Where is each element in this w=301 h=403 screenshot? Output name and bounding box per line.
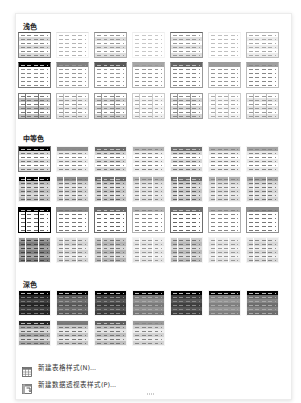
table-style-swatch-medium-26[interactable] bbox=[170, 237, 203, 263]
table-style-swatch-light-7[interactable] bbox=[246, 32, 279, 58]
swatch-row bbox=[95, 228, 126, 232]
table-style-swatch-medium-5[interactable] bbox=[170, 146, 203, 172]
table-style-swatch-medium-18[interactable] bbox=[132, 207, 165, 233]
table-style-swatch-light-12[interactable] bbox=[170, 62, 203, 88]
table-style-swatch-light-10[interactable] bbox=[94, 62, 127, 88]
table-style-swatch-medium-2[interactable] bbox=[56, 146, 89, 172]
table-style-swatch-dark-2[interactable] bbox=[56, 290, 89, 316]
table-style-swatch-dark-9[interactable] bbox=[56, 320, 89, 346]
table-style-swatch-medium-20[interactable] bbox=[208, 207, 241, 233]
table-style-swatch-light-15[interactable] bbox=[18, 93, 51, 119]
table-style-swatch-dark-11[interactable] bbox=[132, 320, 165, 346]
table-style-swatch-light-6[interactable] bbox=[208, 32, 241, 58]
table-style-swatch-medium-12[interactable] bbox=[170, 176, 203, 202]
table-style-swatch-medium-4[interactable] bbox=[132, 146, 165, 172]
table-style-swatch-medium-17[interactable] bbox=[94, 207, 127, 233]
swatch-row bbox=[19, 167, 50, 171]
swatch-row bbox=[247, 83, 278, 87]
swatch-row bbox=[247, 197, 278, 201]
table-style-swatch-light-2[interactable] bbox=[56, 32, 89, 58]
swatch-row bbox=[133, 53, 164, 57]
table-style-swatch-medium-21[interactable] bbox=[246, 207, 279, 233]
swatch-row bbox=[209, 53, 240, 57]
swatch-row bbox=[209, 114, 240, 118]
table-style-swatch-medium-27[interactable] bbox=[208, 237, 241, 263]
table-style-swatch-dark-7[interactable] bbox=[246, 290, 279, 316]
table-style-swatch-medium-13[interactable] bbox=[208, 176, 241, 202]
swatch-row bbox=[57, 311, 88, 315]
table-style-swatch-medium-3[interactable] bbox=[94, 146, 127, 172]
table-style-swatch-medium-23[interactable] bbox=[56, 237, 89, 263]
table-style-swatch-medium-10[interactable] bbox=[94, 176, 127, 202]
new-table-style-button[interactable]: 新建表格样式(N)... bbox=[22, 360, 96, 374]
swatch-row bbox=[57, 258, 88, 262]
swatch-row bbox=[19, 114, 50, 118]
table-style-swatch-dark-10[interactable] bbox=[94, 320, 127, 346]
swatch-row bbox=[57, 197, 88, 201]
swatch-row bbox=[209, 311, 240, 315]
table-style-swatch-light-5[interactable] bbox=[170, 32, 203, 58]
table-style-swatch-medium-16[interactable] bbox=[56, 207, 89, 233]
table-style-swatch-medium-25[interactable] bbox=[132, 237, 165, 263]
table-style-swatch-light-19[interactable] bbox=[170, 93, 203, 119]
table-style-swatch-medium-1[interactable] bbox=[18, 146, 51, 172]
swatch-row bbox=[171, 197, 202, 201]
table-style-swatch-medium-8[interactable] bbox=[18, 176, 51, 202]
table-style-swatch-medium-24[interactable] bbox=[94, 237, 127, 263]
table-style-swatch-medium-9[interactable] bbox=[56, 176, 89, 202]
swatch-row bbox=[247, 53, 278, 57]
new-pivot-table-style-button[interactable]: 新建数据透视表样式(P)... bbox=[22, 377, 116, 391]
table-style-swatch-dark-8[interactable] bbox=[18, 320, 51, 346]
table-style-swatch-dark-5[interactable] bbox=[170, 290, 203, 316]
table-style-swatch-light-20[interactable] bbox=[208, 93, 241, 119]
swatch-row bbox=[247, 311, 278, 315]
swatch-row bbox=[95, 341, 126, 345]
swatch-row bbox=[19, 228, 50, 232]
table-style-swatch-medium-15[interactable] bbox=[18, 207, 51, 233]
swatch-row bbox=[57, 83, 88, 87]
table-style-swatch-light-9[interactable] bbox=[56, 62, 89, 88]
table-style-swatch-dark-3[interactable] bbox=[94, 290, 127, 316]
table-style-swatch-medium-28[interactable] bbox=[246, 237, 279, 263]
table-style-swatch-light-8[interactable] bbox=[18, 62, 51, 88]
swatch-row bbox=[133, 167, 164, 171]
swatch-row bbox=[57, 53, 88, 57]
swatch-row bbox=[19, 53, 50, 57]
table-style-swatch-medium-11[interactable] bbox=[132, 176, 165, 202]
table-style-swatch-medium-14[interactable] bbox=[246, 176, 279, 202]
table-style-swatch-light-21[interactable] bbox=[246, 93, 279, 119]
swatch-row bbox=[171, 114, 202, 118]
table-style-swatch-light-4[interactable] bbox=[132, 32, 165, 58]
swatch-row bbox=[209, 167, 240, 171]
table-style-swatch-dark-1[interactable] bbox=[18, 290, 51, 316]
swatch-row bbox=[133, 83, 164, 87]
table-style-swatch-light-3[interactable] bbox=[94, 32, 127, 58]
swatch-row bbox=[57, 167, 88, 171]
section-title-medium: 中等色 bbox=[23, 133, 44, 143]
table-style-swatch-light-14[interactable] bbox=[246, 62, 279, 88]
table-style-swatch-medium-7[interactable] bbox=[246, 146, 279, 172]
table-style-swatch-light-13[interactable] bbox=[208, 62, 241, 88]
table-style-swatch-light-17[interactable] bbox=[94, 93, 127, 119]
table-style-swatch-medium-19[interactable] bbox=[170, 207, 203, 233]
table-style-swatch-light-18[interactable] bbox=[132, 93, 165, 119]
swatch-row bbox=[57, 341, 88, 345]
table-style-swatch-light-1[interactable] bbox=[18, 32, 51, 58]
swatch-row bbox=[95, 197, 126, 201]
swatch-row bbox=[171, 311, 202, 315]
section-title-dark: 深色 bbox=[23, 279, 37, 289]
swatch-row bbox=[171, 167, 202, 171]
swatch-row bbox=[247, 167, 278, 171]
table-style-swatch-dark-6[interactable] bbox=[208, 290, 241, 316]
table-style-swatch-light-11[interactable] bbox=[132, 62, 165, 88]
swatch-row bbox=[57, 114, 88, 118]
swatch-row bbox=[133, 258, 164, 262]
table-style-swatch-medium-22[interactable] bbox=[18, 237, 51, 263]
resize-grip[interactable] bbox=[147, 393, 155, 395]
swatch-row bbox=[171, 53, 202, 57]
table-style-swatch-dark-4[interactable] bbox=[132, 290, 165, 316]
table-style-swatch-light-16[interactable] bbox=[56, 93, 89, 119]
swatch-row bbox=[95, 258, 126, 262]
section-title-light: 浅色 bbox=[23, 21, 37, 31]
table-style-swatch-medium-6[interactable] bbox=[208, 146, 241, 172]
